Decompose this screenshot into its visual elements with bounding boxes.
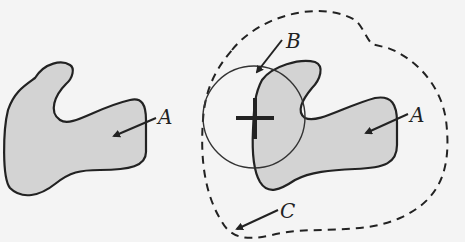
right-label-a: A <box>408 103 424 127</box>
diagram-canvas: A B A C <box>0 0 465 242</box>
label-c: C <box>280 199 295 223</box>
label-b: B <box>285 29 301 53</box>
left-label-a: A <box>156 105 172 129</box>
